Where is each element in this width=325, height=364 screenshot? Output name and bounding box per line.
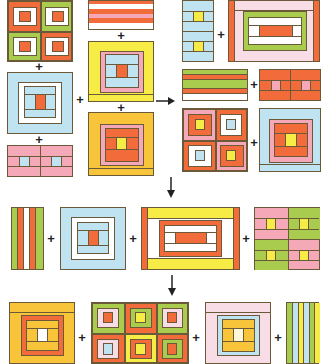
arrow-down-icon [166, 177, 176, 199]
plus-sign: + [46, 234, 56, 244]
arrow-right-icon [156, 96, 176, 106]
plus-sign: + [191, 333, 201, 343]
plus-sign: + [241, 234, 251, 244]
gold-orange-log-cabin-white-center [9, 302, 75, 364]
light-blue-log-cabin [60, 207, 126, 270]
plus-sign: + [249, 80, 259, 90]
pink-orange-green-rectangle [228, 0, 320, 62]
plus-sign: + [34, 62, 44, 72]
plus-sign: + [273, 333, 283, 343]
plus-sign: + [249, 138, 259, 148]
green-orange-strips [182, 69, 248, 101]
orange-strip-pink-squares [259, 69, 321, 101]
plus-sign: + [77, 333, 87, 343]
four-patch-orange-green-block [7, 0, 73, 62]
plus-sign: + [128, 234, 138, 244]
plus-sign: + [116, 31, 126, 41]
light-blue-log-cabin [7, 72, 73, 134]
blue-strip-yellow-squares [182, 0, 214, 62]
vertical-green-blue-yellow-strips [286, 302, 319, 364]
plus-sign: + [34, 135, 44, 145]
pink-strip-blue-squares [7, 145, 73, 177]
arrow-down-icon [167, 275, 177, 297]
gold-orange-log-cabin [88, 112, 154, 176]
plus-sign: + [75, 95, 85, 105]
vertical-green-orange-strips [11, 207, 44, 270]
yellow-pink-blue-log-cabin [88, 41, 154, 102]
pink-green-four-patch [254, 207, 320, 270]
six-patch-log-cabin [91, 302, 189, 364]
blue-pink-orange-log-cabin [259, 108, 321, 172]
yellow-orange-white-rectangle [141, 207, 240, 270]
lightpink-blue-gold-log-cabin [205, 302, 271, 364]
horizontal-strips-block [88, 0, 154, 30]
pink-orange-four-patch [182, 108, 248, 172]
plus-sign: + [216, 30, 226, 40]
